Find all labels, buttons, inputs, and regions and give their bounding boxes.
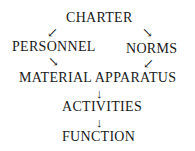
node-charter: CHARTER bbox=[66, 11, 133, 25]
arrow-charter-to-personnel-icon: ↙ bbox=[47, 26, 58, 39]
node-material-apparatus: MATERIAL APPARATUS bbox=[19, 71, 176, 85]
arrow-activities-to-function-icon: ↓ bbox=[96, 116, 103, 129]
node-function: FUNCTION bbox=[62, 130, 135, 144]
arrow-charter-to-norms-icon: ↘ bbox=[142, 26, 153, 39]
node-activities: ACTIVITIES bbox=[62, 100, 142, 114]
node-personnel: PERSONNEL bbox=[12, 40, 96, 54]
arrow-personnel-to-material-icon: ↘ bbox=[48, 55, 59, 68]
arrow-norms-to-material-icon: ↙ bbox=[143, 57, 154, 70]
node-norms: NORMS bbox=[126, 42, 177, 56]
